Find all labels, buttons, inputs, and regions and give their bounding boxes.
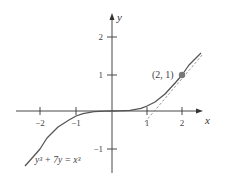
x-tick-label: 2 <box>180 118 185 128</box>
x-axis-arrow-icon <box>196 109 203 114</box>
x-tick-label: 1 <box>145 118 150 128</box>
y-tick-label: 2 <box>99 32 104 42</box>
tangent-line <box>145 54 203 122</box>
y-axis-arrow-icon <box>110 13 115 20</box>
point-marker <box>179 72 185 78</box>
point-label: (2, 1) <box>152 69 174 81</box>
x-axis-label: x <box>204 114 210 126</box>
axes <box>16 13 203 173</box>
equation-label: y³ + 7y = x³ <box>34 155 81 165</box>
y-tick-label: 1 <box>99 70 104 80</box>
y-tick-label: −1 <box>93 144 103 154</box>
x-tick-label: −2 <box>35 118 45 128</box>
implicit-curve-figure: −2 −1 1 2 2 1 −1 x y (2, 1) y³ + 7y = x³ <box>0 0 227 181</box>
x-tick-label: −1 <box>71 118 81 128</box>
y-axis-label: y <box>116 11 122 23</box>
